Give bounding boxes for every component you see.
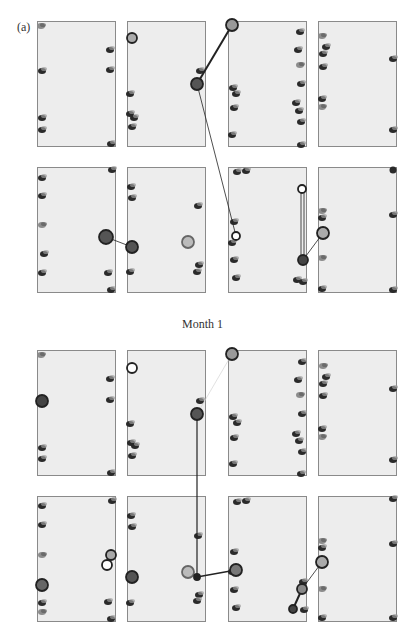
tracked-spot-marker: [317, 227, 329, 239]
tracked-spot-marker: [102, 560, 112, 570]
tracked-spot-marker: [99, 230, 113, 244]
tracked-spot-marker: [126, 571, 138, 583]
spots-bottom: [37, 352, 398, 622]
tracked-spot-marker: [298, 185, 306, 193]
tracked-spot-marker: [226, 19, 238, 31]
tracked-spot-marker: [106, 550, 116, 560]
tracked-spot-marker: [316, 556, 328, 568]
tracked-spot-marker: [289, 605, 297, 613]
tracked-spot-marker: [127, 363, 137, 373]
tracked-spot-marker: [182, 566, 194, 578]
tracked-spot-marker: [191, 408, 203, 420]
tracked-spot-marker: [226, 348, 238, 360]
tracked-spot-marker: [194, 574, 200, 580]
highlight-circles-bottom: [36, 348, 328, 613]
tracked-spot-marker: [182, 236, 194, 248]
tracked-spot-marker: [232, 232, 240, 240]
tracked-spot-marker: [298, 255, 308, 265]
tracked-spot-marker: [36, 579, 48, 591]
tracked-spot-marker: [126, 241, 138, 253]
tracking-links-top: [106, 25, 323, 260]
tracked-spot-marker: [191, 78, 203, 90]
tracked-spot-marker: [127, 33, 137, 43]
tracked-spot-marker: [297, 584, 307, 594]
tracked-spot-marker: [36, 395, 48, 407]
spots-and-links-overlay: [0, 0, 416, 642]
tracked-spot-marker: [230, 564, 242, 576]
spots-top: [37, 23, 398, 293]
